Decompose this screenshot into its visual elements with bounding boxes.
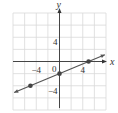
data-point bbox=[57, 71, 62, 76]
data-point bbox=[86, 59, 91, 64]
x-tick-label: −4 bbox=[31, 65, 41, 75]
x-tick-label: 4 bbox=[81, 65, 86, 75]
tick-labels: xy−444−40 bbox=[31, 0, 115, 96]
y-axis-label: y bbox=[56, 0, 62, 10]
data-point bbox=[28, 83, 33, 88]
y-tick-label: 4 bbox=[53, 37, 58, 47]
y-tick-label: −4 bbox=[48, 86, 58, 96]
origin-label: 0 bbox=[52, 64, 57, 74]
coordinate-plane: xy−444−40 bbox=[0, 0, 118, 113]
x-axis-label: x bbox=[109, 56, 115, 67]
axes bbox=[13, 8, 107, 108]
